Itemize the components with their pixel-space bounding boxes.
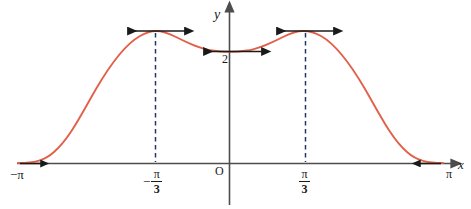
fraction-denominator: 3 bbox=[302, 182, 308, 195]
x-tick-label-pi-over-3: π 3 bbox=[299, 168, 310, 195]
x-tick-label-pi: π bbox=[446, 168, 452, 180]
fraction-stack: π 3 bbox=[151, 168, 162, 195]
x-axis-label: x bbox=[458, 158, 464, 171]
fraction-numerator: π bbox=[152, 168, 162, 180]
graph-canvas bbox=[0, 0, 471, 209]
x-tick-label-minus-pi: −π bbox=[10, 168, 24, 181]
minus-sign-glyph: − bbox=[143, 175, 150, 189]
fraction-denominator: 3 bbox=[154, 182, 160, 195]
origin-label: O bbox=[215, 165, 224, 177]
fraction-numerator: π bbox=[299, 168, 309, 180]
fraction-stack: π 3 bbox=[299, 168, 310, 195]
y-axis-label: y bbox=[214, 8, 220, 22]
math-figure-container: y x O −π π − π 3 π 3 2 bbox=[0, 0, 471, 209]
y-value-label-2: 2 bbox=[222, 53, 228, 65]
x-tick-label-minus-pi-over-3: − π 3 bbox=[143, 168, 162, 195]
